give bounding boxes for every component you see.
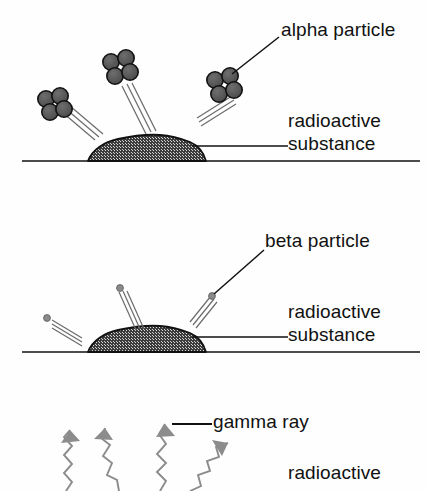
alpha-particle-cluster-3 [207,68,242,102]
beta-particle-1 [44,315,51,322]
radioactive-substance-mound-beta [88,326,206,352]
radioactive-substance-mound-alpha [88,135,206,161]
radioactive-decay-diagram: alpha particle radioactive substance bet… [0,0,426,491]
label-radioactive-gamma: radioactive [288,462,381,483]
beta-particle-2 [117,285,124,292]
gamma-panel-graphics [61,424,228,491]
leader-line-beta-particle [214,250,264,294]
alpha-particle-cluster-2 [103,50,138,84]
motion-lines-beta-1 [52,320,82,346]
label-substance-alpha: substance [288,133,376,154]
gamma-ray-arrowhead-2 [94,428,113,440]
label-alpha-particle: alpha particle [281,19,395,40]
alpha-particle-cluster-1 [38,88,72,120]
label-beta-particle: beta particle [265,230,370,251]
label-radioactive-beta: radioactive [288,301,381,322]
label-substance-beta: substance [288,324,376,345]
gamma-ray-arrowhead-4 [212,440,228,456]
leader-line-alpha-particle [232,37,279,74]
motion-lines-beta-3 [190,296,217,328]
motion-lines-alpha-2 [122,83,156,134]
gamma-ray-arrowhead-3 [156,424,175,437]
label-gamma-ray: gamma ray [213,411,309,432]
motion-lines-beta-2 [119,291,144,330]
label-radioactive-alpha: radioactive [288,110,381,131]
